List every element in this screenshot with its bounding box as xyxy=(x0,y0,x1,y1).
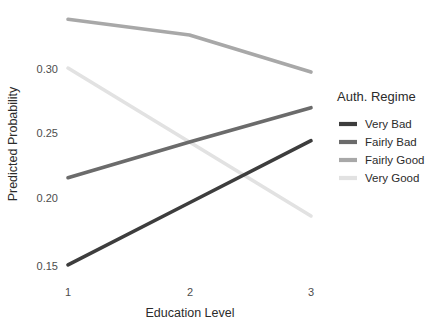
x-tick-label-2: 2 xyxy=(187,286,193,298)
chart-figure: 0.30 0.25 0.20 0.15 1 2 3 Predicted Prob… xyxy=(0,0,438,324)
x-axis-title: Education Level xyxy=(146,306,235,320)
legend-item-very-bad[interactable]: Very Bad xyxy=(339,118,412,130)
legend-item-fairly-good[interactable]: Fairly Good xyxy=(339,154,424,166)
x-tick-label-3: 3 xyxy=(308,286,314,298)
line-chart: 0.30 0.25 0.20 0.15 1 2 3 Predicted Prob… xyxy=(0,0,438,324)
y-tick-label-020: 0.20 xyxy=(37,192,58,204)
x-tick-label-1: 1 xyxy=(65,286,71,298)
y-axis-title: Predicted Probability xyxy=(6,86,20,201)
legend-label-very-good: Very Good xyxy=(365,172,419,184)
x-axis-ticks: 1 2 3 xyxy=(65,286,314,298)
legend-item-very-good[interactable]: Very Good xyxy=(339,172,419,184)
legend-label-fairly-bad: Fairly Bad xyxy=(365,136,417,148)
legend-title: Auth. Regime xyxy=(337,89,416,104)
legend: Auth. Regime Very Bad Fairly Bad Fairly … xyxy=(337,89,424,184)
y-tick-label-015: 0.15 xyxy=(37,260,58,272)
y-axis-ticks: 0.30 0.25 0.20 0.15 xyxy=(37,63,58,272)
y-tick-label-030: 0.30 xyxy=(37,63,58,75)
legend-label-very-bad: Very Bad xyxy=(365,118,412,130)
y-tick-label-025: 0.25 xyxy=(37,127,58,139)
legend-item-fairly-bad[interactable]: Fairly Bad xyxy=(339,136,417,148)
legend-label-fairly-good: Fairly Good xyxy=(365,154,424,166)
